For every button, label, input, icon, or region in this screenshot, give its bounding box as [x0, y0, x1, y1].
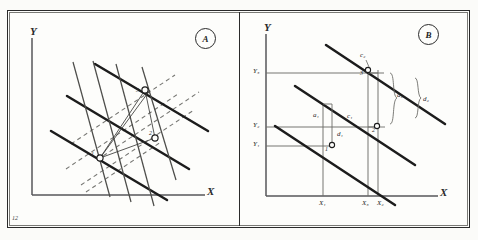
panel-b-x-tick-x3: X₃ [362, 200, 369, 207]
panel-a: Y X 3 2 1 A [9, 12, 238, 226]
point-2 [374, 123, 379, 128]
panel-b-x-tick-x1: X₁ [319, 200, 326, 207]
panel-b-x-tick-x2: X₂ [377, 200, 384, 207]
panel-a-point-1-label: 1 [91, 151, 94, 157]
point-1 [329, 142, 334, 147]
panel-b-construction-lines [323, 73, 385, 146]
panel-b-tag: B [418, 24, 439, 45]
panel-a-x-axis-label: X [207, 186, 214, 197]
panel-a-point-2-label: 2 [149, 130, 152, 136]
panel-a-thick-lines [51, 64, 208, 200]
panel-b-segment-c2: c₂ [360, 52, 366, 59]
panel-b-segment-c1: c₁ [347, 113, 353, 120]
panel-b-y-tick-y1: Y₁ [253, 141, 259, 148]
panel-b-y-axis-label: Y [264, 22, 271, 33]
panel-a-connectors [100, 90, 155, 158]
panel-a-point-3-label: 3 [136, 87, 139, 93]
panel-b-point-1-label: 1 [325, 146, 328, 152]
point-3 [365, 67, 370, 72]
figure-scan: Y X 3 2 1 A [0, 0, 478, 240]
panel-b-horizontal-gridlines [266, 73, 384, 146]
panel-b-point-2-label: 2 [372, 127, 375, 133]
panel-b-segment-d1: d₁ [337, 131, 343, 138]
panel-b-x-axis-label: X [440, 187, 447, 198]
panel-b-parallel-lines [275, 45, 445, 205]
panel-b-c2-leader [366, 60, 369, 67]
panel-b-y-tick-y2: Y₂ [253, 122, 259, 129]
panel-a-tag: A [195, 28, 216, 49]
panel-a-y-axis-label: Y [30, 26, 37, 37]
node-1 [97, 155, 103, 161]
panel-b-drawing [240, 12, 468, 226]
panel-b-segment-d2: d₂ [423, 96, 429, 103]
panel-a-dashed-lines [66, 75, 199, 192]
node-2 [152, 135, 158, 141]
node-3 [142, 87, 148, 93]
panel-b-segment-a2: a₂ [397, 92, 403, 99]
panel-b-segment-a1: a₁ [313, 112, 319, 119]
page-number: 12 [12, 215, 18, 221]
panel-b-point-3-label: 3 [360, 70, 363, 76]
panel-b-y-tick-y3: Y₃ [253, 68, 259, 75]
panel-b: Y X Y₃ Y₂ Y₁ X₁ X₃ X₂ a₁ c₁ d₁ a₂ c₂ d₂ … [240, 12, 468, 226]
